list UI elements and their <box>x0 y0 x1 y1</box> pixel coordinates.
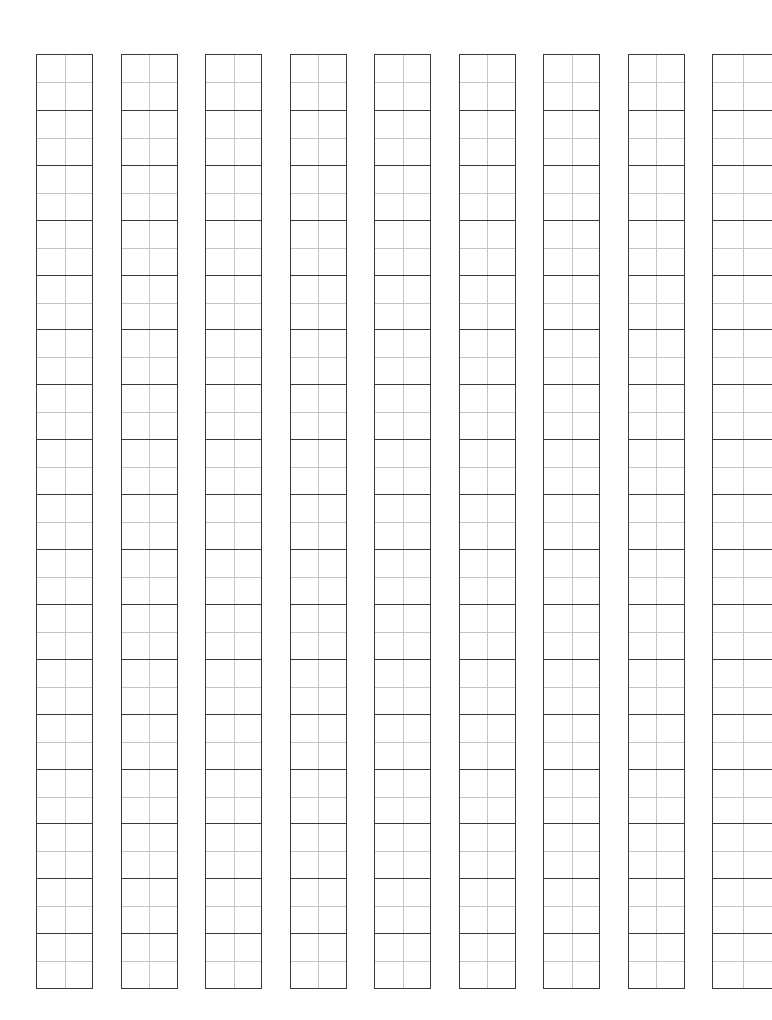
grid-cell <box>206 604 261 659</box>
horizontal-guide-line <box>291 851 346 852</box>
grid-cell <box>37 714 92 769</box>
horizontal-guide-line <box>37 357 92 358</box>
horizontal-guide-line <box>713 82 772 83</box>
grid-cell <box>122 659 177 714</box>
horizontal-guide-line <box>37 193 92 194</box>
horizontal-guide-line <box>122 82 177 83</box>
grid-cell <box>713 275 772 330</box>
grid-cell <box>629 329 684 384</box>
grid-cell <box>291 878 346 933</box>
grid-cell <box>460 878 515 933</box>
horizontal-guide-line <box>375 742 430 743</box>
horizontal-guide-line <box>629 632 684 633</box>
grid-cell <box>291 329 346 384</box>
grid-column <box>459 54 516 989</box>
horizontal-guide-line <box>375 248 430 249</box>
grid-cell <box>544 823 599 878</box>
horizontal-guide-line <box>544 303 599 304</box>
grid-cell <box>206 878 261 933</box>
grid-cell <box>206 769 261 824</box>
horizontal-guide-line <box>122 357 177 358</box>
horizontal-guide-line <box>291 467 346 468</box>
horizontal-guide-line <box>460 138 515 139</box>
horizontal-guide-line <box>713 193 772 194</box>
horizontal-guide-line <box>544 632 599 633</box>
grid-column <box>290 54 347 989</box>
horizontal-guide-line <box>544 961 599 962</box>
grid-cell <box>713 878 772 933</box>
grid-cell <box>544 439 599 494</box>
horizontal-guide-line <box>713 851 772 852</box>
horizontal-guide-line <box>206 742 261 743</box>
grid-cell <box>122 823 177 878</box>
horizontal-guide-line <box>122 467 177 468</box>
grid-cell <box>375 549 430 604</box>
horizontal-guide-line <box>713 412 772 413</box>
horizontal-guide-line <box>122 138 177 139</box>
horizontal-guide-line <box>544 248 599 249</box>
horizontal-guide-line <box>206 522 261 523</box>
grid-cell <box>122 220 177 275</box>
horizontal-guide-line <box>375 522 430 523</box>
horizontal-guide-line <box>460 303 515 304</box>
grid-column <box>121 54 178 989</box>
grid-cell <box>629 165 684 220</box>
grid-cell <box>544 110 599 165</box>
horizontal-guide-line <box>37 906 92 907</box>
grid-cell <box>629 494 684 549</box>
horizontal-guide-line <box>291 577 346 578</box>
grid-cell <box>544 659 599 714</box>
grid-column <box>374 54 431 989</box>
horizontal-guide-line <box>37 961 92 962</box>
grid-cell <box>629 823 684 878</box>
horizontal-guide-line <box>460 193 515 194</box>
horizontal-guide-line <box>460 82 515 83</box>
grid-cell <box>291 549 346 604</box>
horizontal-guide-line <box>291 961 346 962</box>
horizontal-guide-line <box>544 193 599 194</box>
horizontal-guide-line <box>206 357 261 358</box>
grid-cell <box>460 220 515 275</box>
horizontal-guide-line <box>37 742 92 743</box>
horizontal-guide-line <box>37 248 92 249</box>
grid-cell <box>629 439 684 494</box>
horizontal-guide-line <box>206 961 261 962</box>
horizontal-guide-line <box>122 632 177 633</box>
grid-cell <box>375 494 430 549</box>
grid-cell <box>122 275 177 330</box>
grid-cell <box>206 933 261 988</box>
grid-cell <box>629 878 684 933</box>
horizontal-guide-line <box>713 632 772 633</box>
horizontal-guide-line <box>544 138 599 139</box>
horizontal-guide-line <box>122 303 177 304</box>
horizontal-guide-line <box>291 742 346 743</box>
grid-cell <box>544 384 599 439</box>
grid-cell <box>544 165 599 220</box>
grid-cell <box>291 823 346 878</box>
horizontal-guide-line <box>629 522 684 523</box>
horizontal-guide-line <box>460 906 515 907</box>
horizontal-guide-line <box>629 193 684 194</box>
grid-cell <box>375 878 430 933</box>
grid-cell <box>713 769 772 824</box>
grid-cell <box>629 55 684 110</box>
horizontal-guide-line <box>629 303 684 304</box>
horizontal-guide-line <box>460 742 515 743</box>
grid-cell <box>37 55 92 110</box>
horizontal-guide-line <box>37 522 92 523</box>
horizontal-guide-line <box>460 248 515 249</box>
horizontal-guide-line <box>37 303 92 304</box>
grid-cell <box>37 110 92 165</box>
grid-cell <box>375 439 430 494</box>
horizontal-guide-line <box>291 522 346 523</box>
horizontal-guide-line <box>375 138 430 139</box>
grid-cell <box>291 275 346 330</box>
horizontal-guide-line <box>206 138 261 139</box>
horizontal-guide-line <box>375 303 430 304</box>
grid-cell <box>460 275 515 330</box>
grid-cell <box>122 714 177 769</box>
horizontal-guide-line <box>713 303 772 304</box>
grid-cell <box>375 659 430 714</box>
grid-cell <box>713 659 772 714</box>
horizontal-guide-line <box>713 906 772 907</box>
